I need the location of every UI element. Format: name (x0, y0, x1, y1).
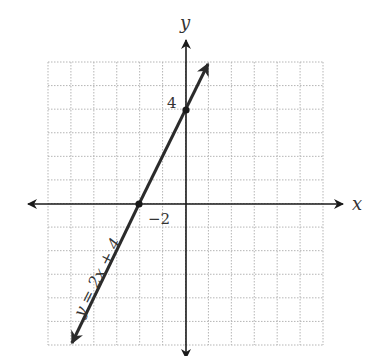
x-axis-label: x (352, 193, 362, 214)
y-axis-label: y (179, 12, 191, 33)
y-intercept-label: 4 (167, 94, 177, 112)
y-intercept-point (182, 106, 189, 113)
x-intercept-label: −2 (148, 210, 170, 228)
x-intercept-point (135, 200, 142, 207)
equation-label: y = 2x + 4 (69, 235, 125, 321)
line-y-equals-2x-plus-4 (139, 64, 208, 204)
coordinate-plane: x y −2 4 y = 2x + 4 (0, 0, 386, 356)
